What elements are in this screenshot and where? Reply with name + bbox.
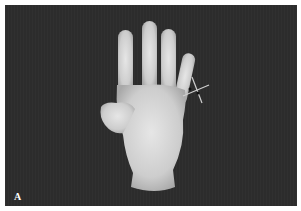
panel-label: A xyxy=(14,191,21,202)
image-frame: A xyxy=(5,5,297,206)
hand-model xyxy=(101,21,197,191)
hand-render xyxy=(5,5,297,206)
